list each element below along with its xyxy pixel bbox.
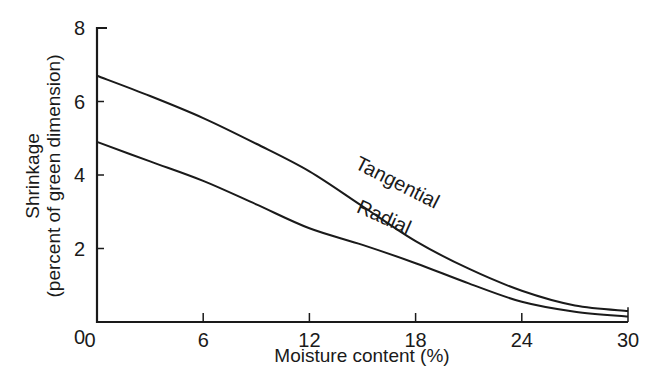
y-tick-label: 2 [74, 238, 85, 260]
y-axis-label: Shrinkage (percent of green dimension) [22, 55, 64, 298]
x-tick-label: 24 [511, 329, 533, 351]
shrinkage-chart: Shrinkage (percent of green dimension) 0… [0, 0, 657, 390]
x-tick-label: 30 [617, 329, 639, 351]
y-tick-label: 6 [74, 91, 85, 113]
x-tick-label: 6 [198, 329, 209, 351]
y-tick-label: 8 [74, 17, 85, 39]
curve-labels: TangentialRadial [352, 152, 443, 239]
x-tick-label: 0 [84, 329, 95, 351]
y-axis-label-line2: (percent of green dimension) [43, 55, 64, 298]
y-axis-label-line1: Shrinkage [22, 133, 43, 219]
curve-label-radial: Radial [354, 195, 415, 238]
y-tick-label: 0 [74, 326, 85, 348]
x-axis-label: Moisture content (%) [274, 345, 449, 366]
y-tick-label: 4 [74, 164, 85, 186]
curve-tangential [97, 76, 628, 311]
